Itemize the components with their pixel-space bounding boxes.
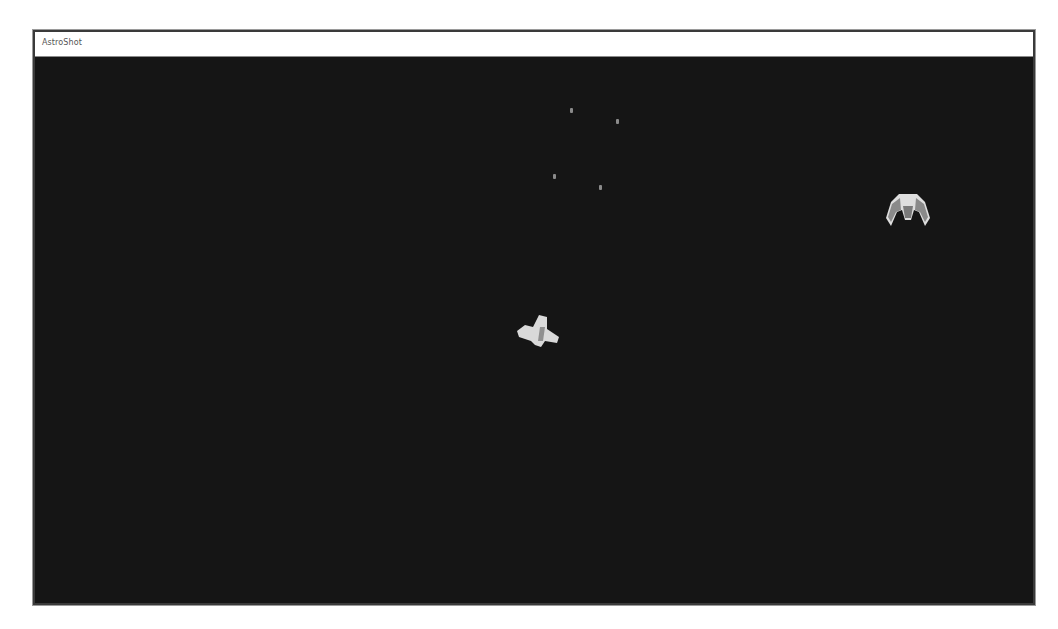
player-ship-icon	[513, 311, 563, 355]
projectile	[553, 174, 556, 179]
window-title: AstroShot	[42, 38, 82, 47]
game-window: AstroShot	[33, 30, 1035, 605]
projectile	[599, 185, 602, 190]
enemy-ship-icon	[883, 190, 933, 234]
game-canvas[interactable]	[35, 57, 1033, 603]
title-bar[interactable]: AstroShot	[35, 32, 1033, 57]
projectile	[616, 119, 619, 124]
projectile	[570, 108, 573, 113]
